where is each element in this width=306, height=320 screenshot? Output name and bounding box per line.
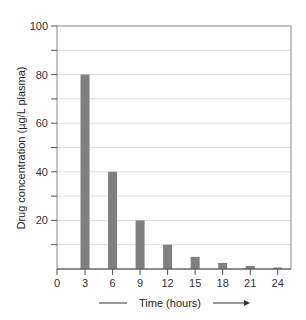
bar-chart: 20406080100 03691215182124 Drug concentr… [0, 0, 306, 320]
x-tick-label: 0 [54, 277, 60, 289]
bar [163, 245, 172, 269]
y-tick-label: 80 [36, 69, 48, 81]
y-tick-label: 100 [30, 20, 48, 32]
y-tick-label: 40 [36, 166, 48, 178]
y-tick-label: 20 [36, 214, 48, 226]
x-tick-label: 21 [244, 277, 256, 289]
x-tick-label: 18 [217, 277, 229, 289]
bar [108, 172, 117, 269]
x-axis-title: Time (hours) [139, 297, 201, 309]
y-tick-label: 60 [36, 117, 48, 129]
x-axis: 03691215182124 [54, 269, 291, 289]
x-tick-label: 6 [109, 277, 115, 289]
bar [81, 75, 90, 269]
gridlines [57, 50, 291, 244]
x-tick-label: 15 [189, 277, 201, 289]
x-tick-label: 24 [272, 277, 284, 289]
x-tick-label: 9 [137, 277, 143, 289]
bar [191, 257, 200, 269]
x-tick-label: 3 [82, 277, 88, 289]
y-axis: 20406080100 [30, 20, 57, 245]
x-tick-label: 12 [161, 277, 173, 289]
y-axis-title: Drug concentration (µg/L plasma) [15, 66, 27, 229]
x-axis-title-group: Time (hours) [99, 297, 250, 309]
arrow-head-icon [244, 300, 250, 306]
bar [218, 263, 227, 269]
bar [136, 220, 145, 269]
